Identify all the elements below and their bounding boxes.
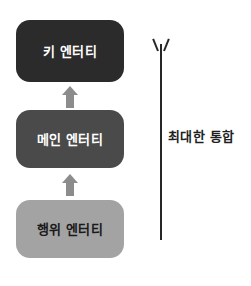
- entity-box-main[interactable]: 메인 엔터티: [16, 110, 124, 168]
- arrow-shaft: [66, 182, 74, 196]
- arrow-main-to-key-icon: [62, 86, 78, 108]
- arrow-line: [160, 44, 162, 240]
- entity-box-action[interactable]: 행위 엔터티: [16, 200, 124, 258]
- integration-axis-label: 최대한 통합: [168, 130, 234, 144]
- upward-arrow-icon: [154, 38, 168, 240]
- entity-label-action: 행위 엔터티: [37, 223, 103, 236]
- arrow-action-to-main-icon: [62, 174, 78, 196]
- arrow-head-left: [152, 39, 159, 52]
- entity-label-key: 키 엔터티: [43, 45, 97, 58]
- entity-label-main: 메인 엔터티: [37, 133, 103, 146]
- arrow-shaft: [66, 94, 74, 108]
- diagram-canvas: 키 엔터티 메인 엔터티 행위 엔터티 최대한 통합: [0, 0, 251, 286]
- entity-box-key[interactable]: 키 엔터티: [16, 20, 124, 82]
- arrow-head-right: [163, 39, 170, 52]
